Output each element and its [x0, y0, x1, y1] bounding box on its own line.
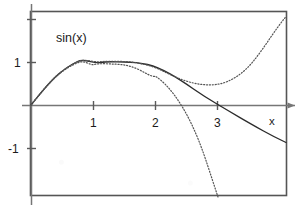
y-tick-label-minus-1: -1 [8, 142, 19, 156]
y-tick-label-1: 1 [14, 56, 21, 70]
function-label: sin(x) [56, 31, 87, 45]
plot-canvas: sin(x) x 1 2 3 1 -1 [0, 0, 307, 208]
x-tick-label-2: 2 [152, 116, 159, 130]
x-axis-label: x [269, 115, 275, 127]
x-tick-label-3: 3 [214, 116, 221, 130]
sine-taylor-plot: sin(x) x 1 2 3 1 -1 [0, 0, 307, 208]
x-tick-label-1: 1 [90, 116, 97, 130]
x-axis-arrow-icon [288, 103, 296, 109]
